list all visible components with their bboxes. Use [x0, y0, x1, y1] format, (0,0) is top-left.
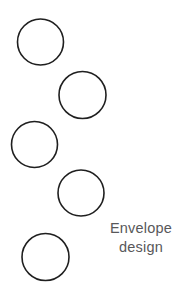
- caption-line-2: design: [99, 238, 183, 257]
- sketch-circle-1: [18, 19, 64, 65]
- sketch-circle-5: [22, 234, 69, 281]
- sketch-canvas: Envelope design: [0, 0, 186, 295]
- sketch-circle-2: [59, 72, 106, 119]
- sketch-circle-3: [12, 122, 58, 168]
- caption-line-1: Envelope: [99, 219, 183, 238]
- sketch-circle-4: [58, 170, 104, 216]
- caption-envelope-design: Envelope design: [99, 219, 183, 257]
